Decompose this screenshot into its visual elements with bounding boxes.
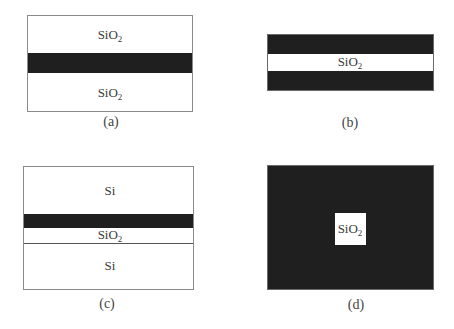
panel-c-bottom-si-label: Si (105, 259, 116, 273)
panel-d-caption: (d) (348, 297, 364, 313)
panel-d-sio2-label: SiO2 (338, 222, 363, 236)
label-text: Si (105, 258, 116, 273)
label-subscript: 2 (118, 234, 123, 244)
label-text: Si (105, 183, 116, 198)
label-text: SiO (98, 227, 118, 242)
panel-c-top-si-label: Si (105, 184, 116, 198)
label-subscript: 2 (358, 61, 363, 71)
panel-c-caption: (c) (99, 296, 115, 312)
panel-c-sio2-label: SiO2 (98, 228, 123, 242)
label-subscript: 2 (118, 92, 123, 102)
panel-c-dark-layer (24, 214, 193, 228)
panel-b-caption: (b) (342, 115, 358, 131)
label-text: SiO (338, 221, 358, 236)
panel-b-sio2-label: SiO2 (338, 55, 363, 69)
panel-a-dark-layer (28, 53, 192, 73)
label-subscript: 2 (358, 228, 363, 238)
label-text: SiO (338, 54, 358, 69)
panel-c-interface-line (24, 243, 193, 244)
panel-a-caption: (a) (103, 114, 119, 130)
panel-a-bottom-sio2-label: SiO2 (98, 86, 123, 100)
panel-a-top-sio2-label: SiO2 (98, 28, 123, 42)
label-text: SiO (98, 27, 118, 42)
label-text: SiO (98, 85, 118, 100)
label-subscript: 2 (118, 34, 123, 44)
